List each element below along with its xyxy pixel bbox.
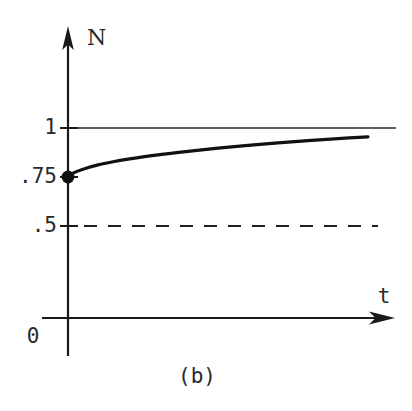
initial-condition-point	[62, 171, 75, 184]
y-axis-label: N	[87, 25, 106, 50]
y-tick-label-1: 1	[44, 115, 57, 139]
figure-panel-b: 1 .75 .5 N t 0 (b)	[0, 0, 412, 411]
y-tick-label-075: .75	[19, 164, 57, 188]
figure-caption: (b)	[178, 364, 216, 388]
origin-label: 0	[27, 324, 40, 348]
plot-canvas: 1 .75 .5 N t 0 (b)	[0, 0, 412, 411]
x-axis-label: t	[378, 284, 391, 308]
y-tick-label-05: .5	[32, 213, 57, 237]
data-curve-N	[68, 137, 368, 177]
